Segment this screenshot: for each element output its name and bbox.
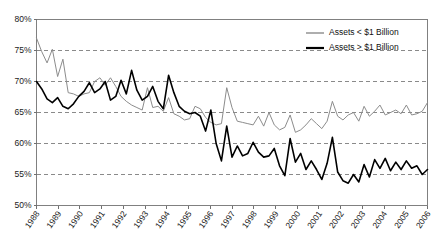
x-axis-tick-label: 1991 xyxy=(88,209,107,230)
x-axis-tick-labels: 1988198919901991199219931994199519961997… xyxy=(23,206,433,231)
x-axis-tick-label: 2005 xyxy=(392,209,411,230)
x-axis-tick-label: 1998 xyxy=(240,209,259,230)
x-axis-tick-label: 2001 xyxy=(305,209,324,230)
x-axis-tick-label: 1996 xyxy=(196,209,215,230)
x-axis-tick-label: 1995 xyxy=(175,209,194,230)
x-axis-tick-label: 2006 xyxy=(414,209,433,230)
x-axis-tick-label: 2000 xyxy=(283,209,302,230)
x-axis-tick-label: 1992 xyxy=(109,209,128,230)
x-axis-tick-label: 1997 xyxy=(218,209,237,230)
legend-label-assets-under-1-billion: Assets < $1 Billion xyxy=(329,27,399,37)
x-axis-tick-label: 1990 xyxy=(66,209,85,230)
x-axis-tick-label: 2003 xyxy=(348,209,367,230)
x-axis-tick-label: 1994 xyxy=(153,209,172,230)
x-axis-tick-label: 1993 xyxy=(131,209,150,230)
legend-label-assets-over-1-billion: Assets > $1 Billion xyxy=(329,42,399,52)
x-axis-tick-label: 2004 xyxy=(370,209,389,230)
y-axis-tick-label: 75% xyxy=(14,45,31,55)
x-axis-tick-label: 1988 xyxy=(23,209,42,230)
series-line-assets-over-1-billion xyxy=(37,70,428,183)
chart-legend: Assets < $1 BillionAssets > $1 Billion xyxy=(306,27,399,52)
x-axis-tick-label: 1999 xyxy=(262,209,281,230)
y-axis-tick-label: 70% xyxy=(14,76,31,86)
y-axis-tick-label: 80% xyxy=(14,14,31,24)
y-axis-tick-label: 65% xyxy=(14,107,31,117)
y-axis-tick-label: 50% xyxy=(14,200,31,210)
line-chart: 80%75%70%65%60%55%50% 198819891990199119… xyxy=(0,0,436,246)
y-axis-tick-label: 60% xyxy=(14,138,31,148)
x-axis-tick-label: 2002 xyxy=(327,209,346,230)
y-axis-tick-labels: 80%75%70%65%60%55%50% xyxy=(14,14,36,210)
chart-container: 80%75%70%65%60%55%50% 198819891990199119… xyxy=(0,0,436,246)
y-axis-tick-label: 55% xyxy=(14,169,31,179)
data-series xyxy=(37,38,428,183)
x-axis-tick-label: 1989 xyxy=(44,209,63,230)
